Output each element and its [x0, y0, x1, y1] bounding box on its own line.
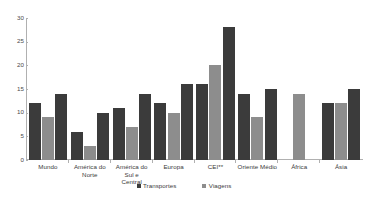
bar-transportes — [181, 84, 193, 160]
y-axis-tick-labels: 302520151050 — [0, 18, 24, 160]
bar-transportes — [139, 94, 151, 160]
bar-transportes — [71, 132, 83, 160]
bar-viagens — [84, 146, 96, 160]
bar-transportes — [348, 89, 360, 160]
bar-viagens — [168, 113, 180, 160]
y-axis-tick-label: 15 — [4, 86, 24, 92]
bar-transportes — [238, 94, 250, 160]
bar-group — [236, 18, 278, 160]
y-axis-tick-label: 25 — [4, 38, 24, 44]
bar-transportes — [97, 113, 109, 160]
bar-group — [27, 18, 69, 160]
x-axis-label-line1: África — [279, 163, 319, 171]
y-axis-tick-label: 0 — [4, 157, 24, 163]
bar-viagens — [293, 94, 305, 160]
legend-swatch-icon — [202, 184, 206, 188]
x-axis-label-line1: Ásia — [321, 163, 361, 171]
bar-transportes — [223, 27, 235, 160]
y-axis-tick-label: 5 — [4, 133, 24, 139]
legend-label: Transportes — [143, 183, 176, 189]
bar-transportes — [55, 94, 67, 160]
legend-label: Viagens — [209, 183, 232, 189]
bar-group — [111, 18, 153, 160]
x-axis-label-line1: Europa — [154, 163, 194, 171]
bar-viagens — [209, 65, 221, 160]
bar-group — [195, 18, 237, 160]
bar-groups — [27, 18, 362, 160]
x-axis-label-line1: Oriente Médio — [237, 163, 277, 171]
legend-item[interactable]: Viagens — [202, 183, 231, 189]
bar-viagens — [42, 117, 54, 160]
x-axis-label-line1: América do Sul e — [112, 163, 152, 178]
chart-legend: TransportesViagens — [0, 183, 368, 189]
legend-item[interactable]: Transportes — [137, 183, 177, 189]
bar-group — [320, 18, 362, 160]
bar-transportes — [196, 84, 208, 160]
bar-transportes — [29, 103, 41, 160]
bar-group — [153, 18, 195, 160]
bar-transportes — [154, 103, 166, 160]
bar-group — [278, 18, 320, 160]
bar-viagens — [251, 117, 263, 160]
y-axis-tick-label: 10 — [4, 109, 24, 115]
bar-group — [69, 18, 111, 160]
x-axis-label-line1: Mundo — [28, 163, 68, 171]
y-axis-tick-label: 30 — [4, 15, 24, 21]
x-axis-label-line1: CEI** — [196, 163, 236, 171]
bar-viagens — [335, 103, 347, 160]
bar-chart: 302520151050 MundoAmérica doNorteAmérica… — [0, 0, 368, 216]
bar-transportes — [322, 103, 334, 160]
x-axis-label-line2: Norte — [70, 171, 110, 179]
legend-swatch-icon — [137, 184, 141, 188]
bar-viagens — [126, 127, 138, 160]
y-axis-tick-mark — [26, 160, 28, 161]
bar-transportes — [113, 108, 125, 160]
y-axis-tick-label: 20 — [4, 62, 24, 68]
x-axis-label-line1: América do — [70, 163, 110, 171]
bar-transportes — [265, 89, 277, 160]
